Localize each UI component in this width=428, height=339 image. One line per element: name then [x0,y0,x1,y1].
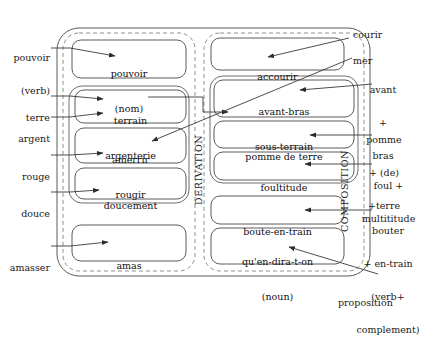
annotation-line: amasser [0,262,50,273]
annotation-douce: douce [0,186,50,241]
box-line: foultitude [214,182,354,194]
box-line: accourir [211,71,344,83]
box-line: (noun) [211,291,344,303]
box-line: doucement [75,200,186,212]
annotation-line: bouter [348,225,428,236]
box-label-doucement: doucement [75,177,186,235]
box-label-quen-dira-t-on: qu'en-dira-t-on (noun) [211,233,344,325]
annotation-line: foul + [349,180,428,191]
box-line: pouvoir [72,68,186,80]
annotation-proposition: proposition [338,275,428,330]
derivation-label: DERIVATION [193,135,204,205]
annotation-line: argent [0,133,50,144]
annotation-line: pouvoir [0,52,50,63]
annotation-line: + en-train [348,258,428,269]
annotation-line: proposition [338,297,428,308]
box-label-amas: amas [72,237,186,295]
box-line: amas [72,260,186,272]
annotation-line: pomme [353,134,415,145]
annotation-line: douce [0,208,50,219]
annotation-amasser: amasser [0,240,50,295]
annotation-line: rouge [0,171,50,182]
box-line: amerrir [75,154,186,166]
box-line: qu'en-dira-t-on [211,256,344,268]
annotation-line: avant [353,84,413,95]
box-line: terrain [75,115,186,127]
box-line: avant-bras [214,106,354,118]
